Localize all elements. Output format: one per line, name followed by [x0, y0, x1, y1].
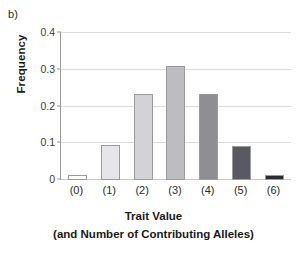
- x-tick-label-1: (1): [93, 184, 126, 196]
- bar-4: [199, 94, 218, 180]
- x-tick-label-6: (6): [257, 184, 290, 196]
- bar-slot-6: [258, 32, 291, 180]
- figure-panel-b: b) Frequency 0.4 0.3 0.2 0.1 0: [0, 0, 307, 255]
- x-axis-title-line2: (and Number of Contributing Alleles): [0, 226, 307, 244]
- bar-slot-2: [127, 32, 160, 180]
- bar-3: [166, 66, 185, 180]
- bar-series: [61, 32, 291, 180]
- x-tick-label-4: (4): [191, 184, 224, 196]
- bar-slot-1: [94, 32, 127, 180]
- y-tick-label-0: 0: [49, 173, 55, 185]
- y-tick-label-0.1: 0.1: [40, 136, 55, 148]
- bar-1: [101, 145, 120, 180]
- y-tick-label-0.2: 0.2: [40, 100, 55, 112]
- x-tick-label-2: (2): [126, 184, 159, 196]
- x-tick-label-3: (3): [159, 184, 192, 196]
- y-tick-label-0.3: 0.3: [40, 63, 55, 75]
- x-axis-title: Trait Value (and Number of Contributing …: [0, 208, 307, 244]
- bar-slot-5: [225, 32, 258, 180]
- bar-5: [232, 146, 251, 180]
- bar-slot-4: [192, 32, 225, 180]
- x-axis-title-line1: Trait Value: [125, 210, 183, 222]
- plot-area: 0.4 0.3 0.2 0.1 0: [60, 32, 290, 180]
- y-tick-label-0.4: 0.4: [40, 26, 55, 38]
- plot-wrap: 0.4 0.3 0.2 0.1 0: [60, 32, 290, 180]
- bar-6: [265, 175, 284, 181]
- y-axis-title: Frequency: [15, 9, 27, 119]
- x-tick-label-5: (5): [224, 184, 257, 196]
- bar-0: [68, 175, 87, 181]
- bar-2: [134, 94, 153, 180]
- x-axis-tick-labels: (0) (1) (2) (3) (4) (5) (6): [60, 184, 290, 196]
- bar-slot-0: [61, 32, 94, 180]
- x-tick-label-0: (0): [60, 184, 93, 196]
- bar-slot-3: [160, 32, 193, 180]
